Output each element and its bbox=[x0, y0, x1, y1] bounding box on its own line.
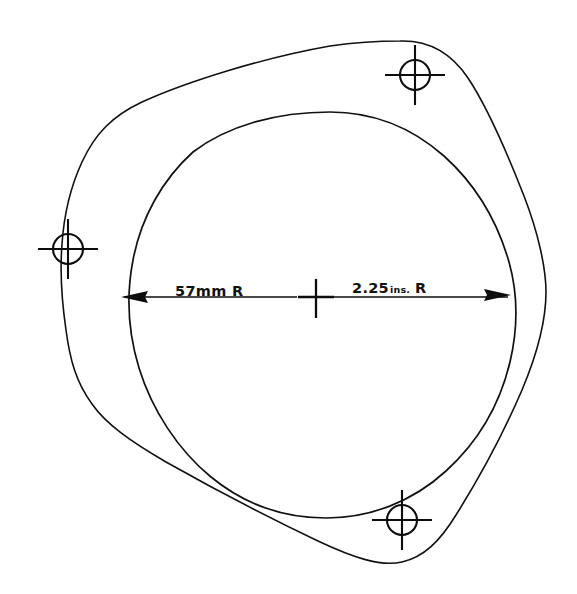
dimension-label-imperial-value: 2.25 bbox=[352, 280, 389, 296]
outer-flange-outline bbox=[61, 41, 546, 563]
dimension-label-imperial-suffix: R bbox=[415, 280, 426, 296]
dimension-label-imperial-unit: ins. bbox=[390, 284, 410, 295]
bolt-hole-top-right[interactable] bbox=[385, 45, 445, 105]
dimension-arrowhead-left bbox=[121, 291, 148, 303]
inner-bore-outline bbox=[129, 112, 516, 518]
technical-drawing-canvas: 57mm R 2.25 ins. R bbox=[0, 0, 577, 594]
dimension-label-imperial: 2.25 ins. R bbox=[352, 280, 426, 296]
bolt-hole-left[interactable] bbox=[38, 219, 98, 279]
dimension-arrowhead-right bbox=[484, 289, 511, 301]
gasket-drawing-svg: 57mm R 2.25 ins. R bbox=[0, 0, 577, 594]
dimension-label-metric: 57mm R bbox=[175, 283, 243, 299]
bolt-hole-bottom-right[interactable] bbox=[372, 490, 432, 550]
